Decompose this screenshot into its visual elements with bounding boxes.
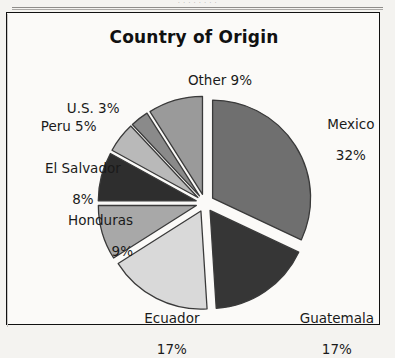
pie-label-ecuador-value: 17%: [157, 341, 187, 357]
pie-label-honduras-value: 9%: [112, 243, 133, 259]
top-rule-lower: [12, 9, 383, 10]
pie-label-el-salvador: El Salvador 8%: [9, 145, 131, 223]
pie-label-ecuador: Ecuador 17%: [103, 295, 215, 358]
pie-label-el-salvador-name: El Salvador: [45, 160, 121, 176]
pie-label-other: Other 9%: [136, 57, 252, 104]
pie-label-el-salvador-value: 8%: [72, 191, 93, 207]
page-top-text-fragment: · · · · · · · ·: [0, 0, 395, 7]
pie-label-guatemala: Guatemala 17%: [269, 295, 379, 358]
pie-label-guatemala-value: 17%: [322, 341, 352, 357]
chart-frame: Country of Origin Other 9% Mexico 32% Gu…: [6, 12, 380, 325]
pie-label-us: U.S. 3%: [41, 85, 153, 132]
pie-label-mexico-name: Mexico: [327, 116, 374, 132]
pie-label-ecuador-name: Ecuador: [144, 310, 199, 326]
pie-label-mexico-value: 32%: [336, 147, 366, 163]
pie-label-guatemala-name: Guatemala: [300, 310, 374, 326]
pie-label-other-text: Other 9%: [188, 72, 252, 88]
pie-label-mexico: Mexico 32%: [295, 101, 381, 179]
top-rule-upper: [12, 7, 383, 8]
pie-label-us-text: U.S. 3%: [67, 100, 120, 116]
